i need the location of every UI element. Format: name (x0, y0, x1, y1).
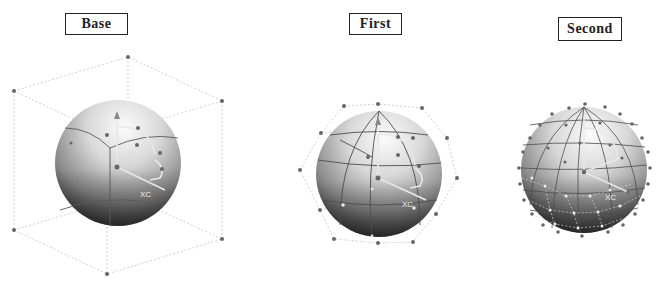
base-control-points (12, 55, 224, 276)
figure-canvas: XC (0, 0, 669, 289)
base-axis-label: XC (140, 190, 151, 199)
second-axis-label: XC (605, 193, 616, 202)
base-panel: XC (12, 55, 224, 276)
second-panel: XC (517, 102, 652, 238)
first-axis-label: XC (402, 200, 413, 209)
first-panel: XC (298, 102, 459, 245)
